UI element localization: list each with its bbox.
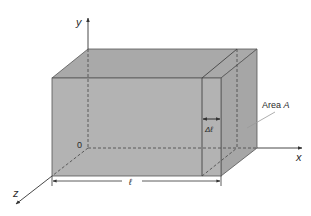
slice-label: Δℓ	[204, 125, 213, 134]
z-axis	[16, 176, 52, 204]
length-label: ℓ	[128, 177, 132, 187]
area-label: Area A	[262, 100, 290, 110]
origin-label: 0	[77, 140, 82, 150]
z-axis-label: z	[12, 187, 19, 199]
x-axis-label: x	[295, 151, 302, 163]
block-diagram: y x z 0 ℓ Δℓ Area A	[0, 0, 311, 216]
block-front-face	[52, 78, 221, 176]
y-axis-label: y	[75, 16, 83, 28]
